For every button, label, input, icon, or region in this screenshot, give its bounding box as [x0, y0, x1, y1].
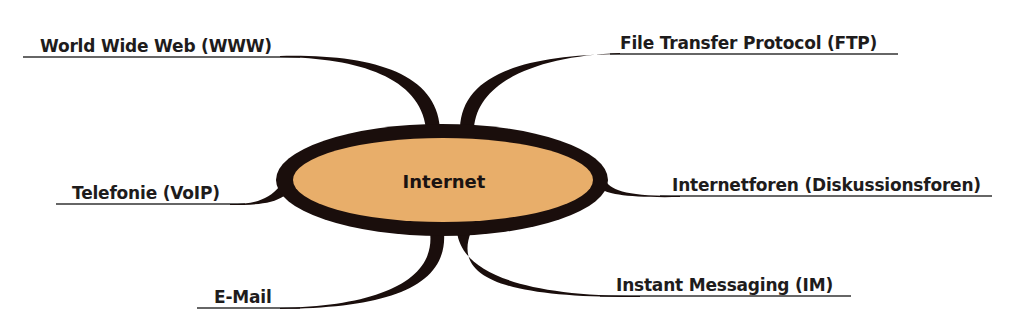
- branch-email: [280, 232, 444, 309]
- branch-label-foren: Internetforen (Diskussionsforen): [672, 175, 981, 195]
- central-node-label: Internet: [403, 171, 486, 193]
- branch-voip: [230, 186, 284, 205]
- branch-www: [280, 56, 440, 128]
- internet-mind-map: Internet World Wide Web (WWW) File Trans…: [0, 0, 1011, 333]
- branch-label-im: Instant Messaging (IM): [616, 275, 833, 295]
- branch-label-voip: Telefonie (VoIP): [72, 183, 220, 203]
- branch-ftp: [460, 53, 620, 128]
- branch-label-www: World Wide Web (WWW): [40, 36, 272, 56]
- branch-foren: [600, 180, 680, 197]
- branch-label-email: E-Mail: [214, 287, 272, 307]
- branch-label-ftp: File Transfer Protocol (FTP): [620, 33, 877, 53]
- branch-im: [457, 232, 640, 297]
